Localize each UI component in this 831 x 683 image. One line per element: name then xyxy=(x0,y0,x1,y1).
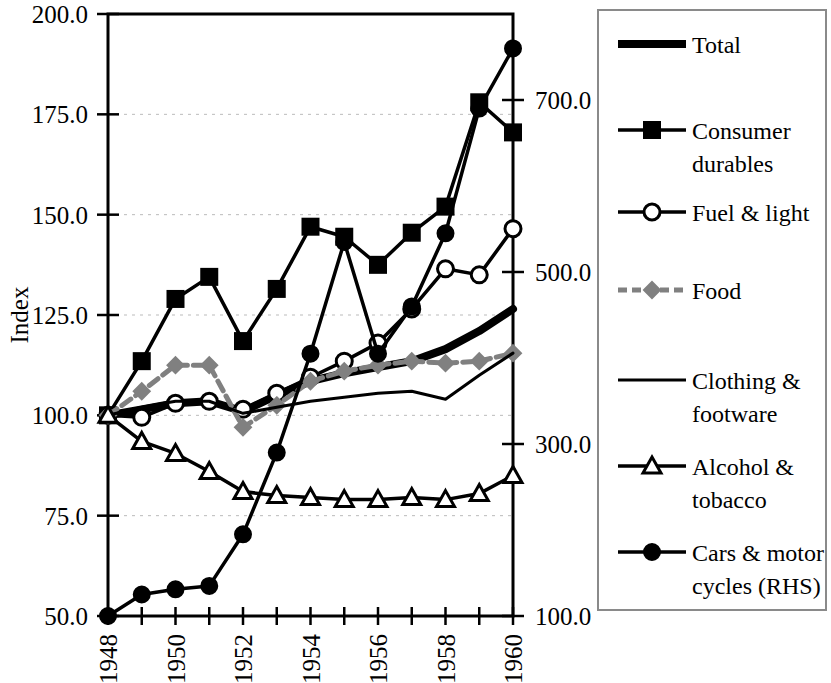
data-point-marker xyxy=(438,225,454,241)
legend-swatch-marker xyxy=(644,204,660,220)
data-point-marker xyxy=(505,221,521,237)
series-6 xyxy=(100,40,521,624)
legend-label: Total xyxy=(692,32,741,58)
y-tick-label: 125.0 xyxy=(32,302,88,329)
legend-swatch-marker xyxy=(644,544,660,560)
line-chart: Index 50.075.0100.0125.0150.0175.0200.0 … xyxy=(0,0,831,683)
data-point-marker xyxy=(404,298,420,314)
x-tick-label: 1960 xyxy=(500,634,527,683)
y-tick-label: 175.0 xyxy=(32,101,88,128)
data-point-marker xyxy=(505,40,521,56)
y2-tick-label: 300.0 xyxy=(535,431,591,458)
x-tick-label: 1954 xyxy=(298,634,325,683)
legend-label: Clothing & xyxy=(692,368,801,394)
data-point-marker xyxy=(134,409,150,425)
legend-box xyxy=(598,10,826,610)
data-point-marker xyxy=(100,608,116,624)
legend-label-line2: durables xyxy=(692,151,773,177)
data-point-marker xyxy=(404,225,420,241)
legend-swatch-marker xyxy=(644,122,660,138)
x-axis-ticks: 1948195019521954195619581960 xyxy=(95,607,527,683)
y2-tick-label: 500.0 xyxy=(535,259,591,286)
data-point-marker xyxy=(269,281,285,297)
series-5 xyxy=(99,406,522,506)
legend-label-line2: tobacco xyxy=(692,487,767,513)
legend-label: Food xyxy=(692,278,741,304)
data-point-marker xyxy=(134,587,150,603)
legend-label-line2: cycles (RHS) xyxy=(692,573,821,599)
legend-label-line2: footware xyxy=(692,401,777,427)
data-point-marker xyxy=(471,101,487,117)
x-tick-label: 1948 xyxy=(95,634,122,683)
data-point-marker xyxy=(200,463,218,479)
x-tick-label: 1950 xyxy=(163,634,190,683)
data-point-marker xyxy=(134,353,150,369)
data-point-marker xyxy=(201,578,217,594)
data-point-marker xyxy=(438,355,454,371)
data-point-marker xyxy=(370,346,386,362)
y-tick-label: 100.0 xyxy=(32,402,88,429)
data-point-marker xyxy=(471,267,487,283)
series-line xyxy=(108,48,513,616)
y-tick-label: 75.0 xyxy=(44,503,88,530)
chart-page: Index 50.075.0100.0125.0150.0175.0200.0 … xyxy=(0,0,831,683)
data-point-marker xyxy=(504,467,522,483)
data-point-marker xyxy=(168,581,184,597)
legend-label: Consumer xyxy=(692,118,791,144)
data-point-marker xyxy=(505,124,521,140)
series-layer xyxy=(99,40,522,624)
y2-tick-label: 700.0 xyxy=(535,87,591,114)
data-point-marker xyxy=(470,485,488,501)
y2-tick-label: 100.0 xyxy=(535,603,591,630)
y-axis-left-ticks: 50.075.0100.0125.0150.0175.0200.0 xyxy=(32,1,119,630)
data-point-marker xyxy=(303,346,319,362)
legend-label: Fuel & light xyxy=(692,200,810,226)
data-point-marker xyxy=(168,291,184,307)
y-tick-label: 200.0 xyxy=(32,1,88,28)
y-tick-label: 150.0 xyxy=(32,202,88,229)
data-point-marker xyxy=(201,269,217,285)
y-tick-label: 50.0 xyxy=(44,603,88,630)
x-tick-label: 1958 xyxy=(433,634,460,683)
data-point-marker xyxy=(438,261,454,277)
data-point-marker xyxy=(471,353,487,369)
legend-label: Cars & motor xyxy=(692,540,824,566)
x-tick-label: 1952 xyxy=(230,634,257,683)
data-point-marker xyxy=(235,526,251,542)
data-point-marker xyxy=(235,333,251,349)
data-point-marker xyxy=(336,234,352,250)
y-axis-title: Index xyxy=(6,286,33,343)
x-tick-label: 1956 xyxy=(365,634,392,683)
data-point-marker xyxy=(269,445,285,461)
data-point-marker xyxy=(370,257,386,273)
data-point-marker xyxy=(303,219,319,235)
legend-label: Alcohol & xyxy=(692,454,794,480)
